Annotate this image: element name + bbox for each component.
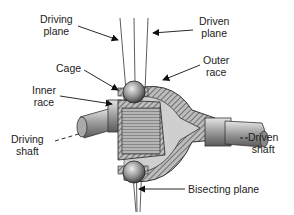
inner-race: [118, 100, 165, 160]
label-inner-race: Inner race: [32, 84, 56, 108]
label-line: shaft: [11, 145, 44, 157]
label-line: plane: [40, 25, 73, 37]
driving-shaft: [77, 100, 122, 138]
label-driven-shaft: Driven shaft: [248, 131, 278, 155]
label-driving-plane: Driving plane: [40, 13, 73, 37]
label-line: Driving: [11, 133, 44, 145]
label-line: Driven: [248, 131, 278, 143]
label-driven-plane: Driven plane: [199, 15, 229, 39]
label-line: Inner: [32, 84, 56, 96]
label-cage: Cage: [56, 62, 81, 74]
ball-bottom: [123, 161, 145, 183]
label-line: Driven: [199, 15, 229, 27]
label-line: Outer: [203, 54, 229, 66]
label-line: race: [32, 96, 56, 108]
label-driving-shaft: Driving shaft: [11, 133, 44, 157]
label-outer-race: Outer race: [203, 54, 229, 78]
ball-top: [123, 81, 145, 103]
label-line: race: [203, 66, 229, 78]
label-bisecting-plane: Bisecting plane: [188, 183, 259, 195]
label-line: Driving: [40, 13, 73, 25]
label-line: plane: [199, 27, 229, 39]
label-line: shaft: [248, 143, 278, 155]
